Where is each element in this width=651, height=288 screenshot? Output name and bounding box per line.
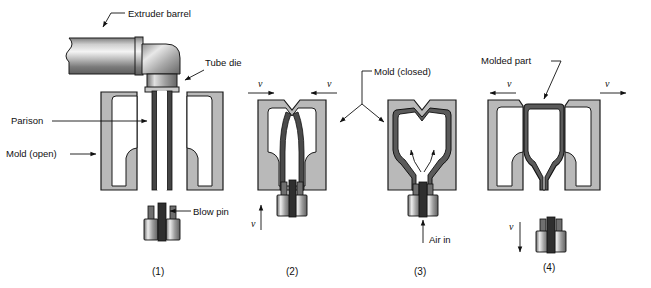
blow-pin-assembly-stage-2	[277, 180, 307, 217]
velocity-label-up-2: v	[251, 218, 256, 229]
crosshead-elbow	[142, 44, 180, 74]
blow-molding-figure: Extruder barrel Tube die Parison Mold (o…	[0, 0, 651, 288]
mold-open-label: Mold (open)	[6, 148, 57, 159]
stage-4-caption: (4)	[543, 262, 555, 273]
stage-1-caption: (1)	[152, 266, 164, 277]
velocity-arrows-stage-2: v v	[248, 78, 337, 93]
extruder-barrel	[66, 37, 143, 75]
velocity-arrows-stage-4: v v	[490, 78, 626, 93]
velocity-label-right-4: v	[605, 78, 610, 89]
extruder-barrel-leader	[103, 13, 125, 27]
molded-part-interior	[528, 109, 560, 190]
molded-part-label: Molded part	[481, 55, 532, 66]
blow-pin-assembly-stage-1	[144, 203, 180, 241]
parison-tube	[152, 91, 172, 190]
tube-die-leader	[185, 70, 204, 80]
air-in-label: Air in	[429, 234, 451, 245]
tube-die	[147, 74, 177, 88]
parison-label: Parison	[11, 115, 43, 126]
velocity-label-left-4: v	[507, 78, 512, 89]
blow-pin-label: Blow pin	[193, 206, 229, 217]
velocity-label-down-4: v	[509, 221, 514, 232]
velocity-label-left-2: v	[258, 78, 263, 89]
stage-4-group: v v Molded part v (4)	[481, 55, 626, 273]
stage-1-group: Extruder barrel Tube die Parison Mold (o…	[6, 8, 242, 277]
velocity-label-right-2: v	[327, 78, 332, 89]
blow-pin-assembly-stage-4	[536, 217, 566, 253]
stage-2-caption: (2)	[286, 266, 298, 277]
extruder-barrel-label: Extruder barrel	[128, 8, 191, 19]
stage-3-caption: (3)	[414, 266, 426, 277]
stage-2-group: v v v (2)	[248, 78, 337, 277]
figure-canvas: Extruder barrel Tube die Parison Mold (o…	[0, 0, 651, 288]
mold-closed-label: Mold (closed)	[374, 66, 431, 77]
tube-die-label: Tube die	[205, 57, 242, 68]
molded-part-leader	[544, 61, 561, 99]
stage-3-group: Air in (3)	[388, 100, 456, 277]
